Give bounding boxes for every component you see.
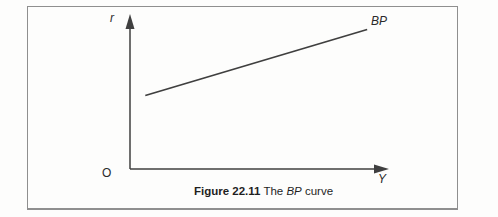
x-axis-label: Y [378, 173, 386, 185]
figure-box: r O Y BP Figure 22.11 The BP curve [27, 6, 458, 210]
plot-canvas [28, 7, 457, 206]
caption-text-emph: BP [286, 185, 301, 197]
bp-curve-label: BP [371, 15, 387, 27]
y-axis-arrowhead-icon [126, 14, 135, 29]
y-axis-label: r [110, 12, 114, 24]
origin-label: O [102, 167, 111, 179]
bp-curve-line [145, 30, 367, 96]
figure-caption: Figure 22.11 The BP curve [70, 185, 457, 197]
caption-text-pre: The [263, 185, 283, 197]
page: r O Y BP Figure 22.11 The BP curve [0, 0, 498, 217]
caption-text-post: curve [305, 185, 333, 197]
figure-number: Figure 22.11 [194, 185, 260, 197]
